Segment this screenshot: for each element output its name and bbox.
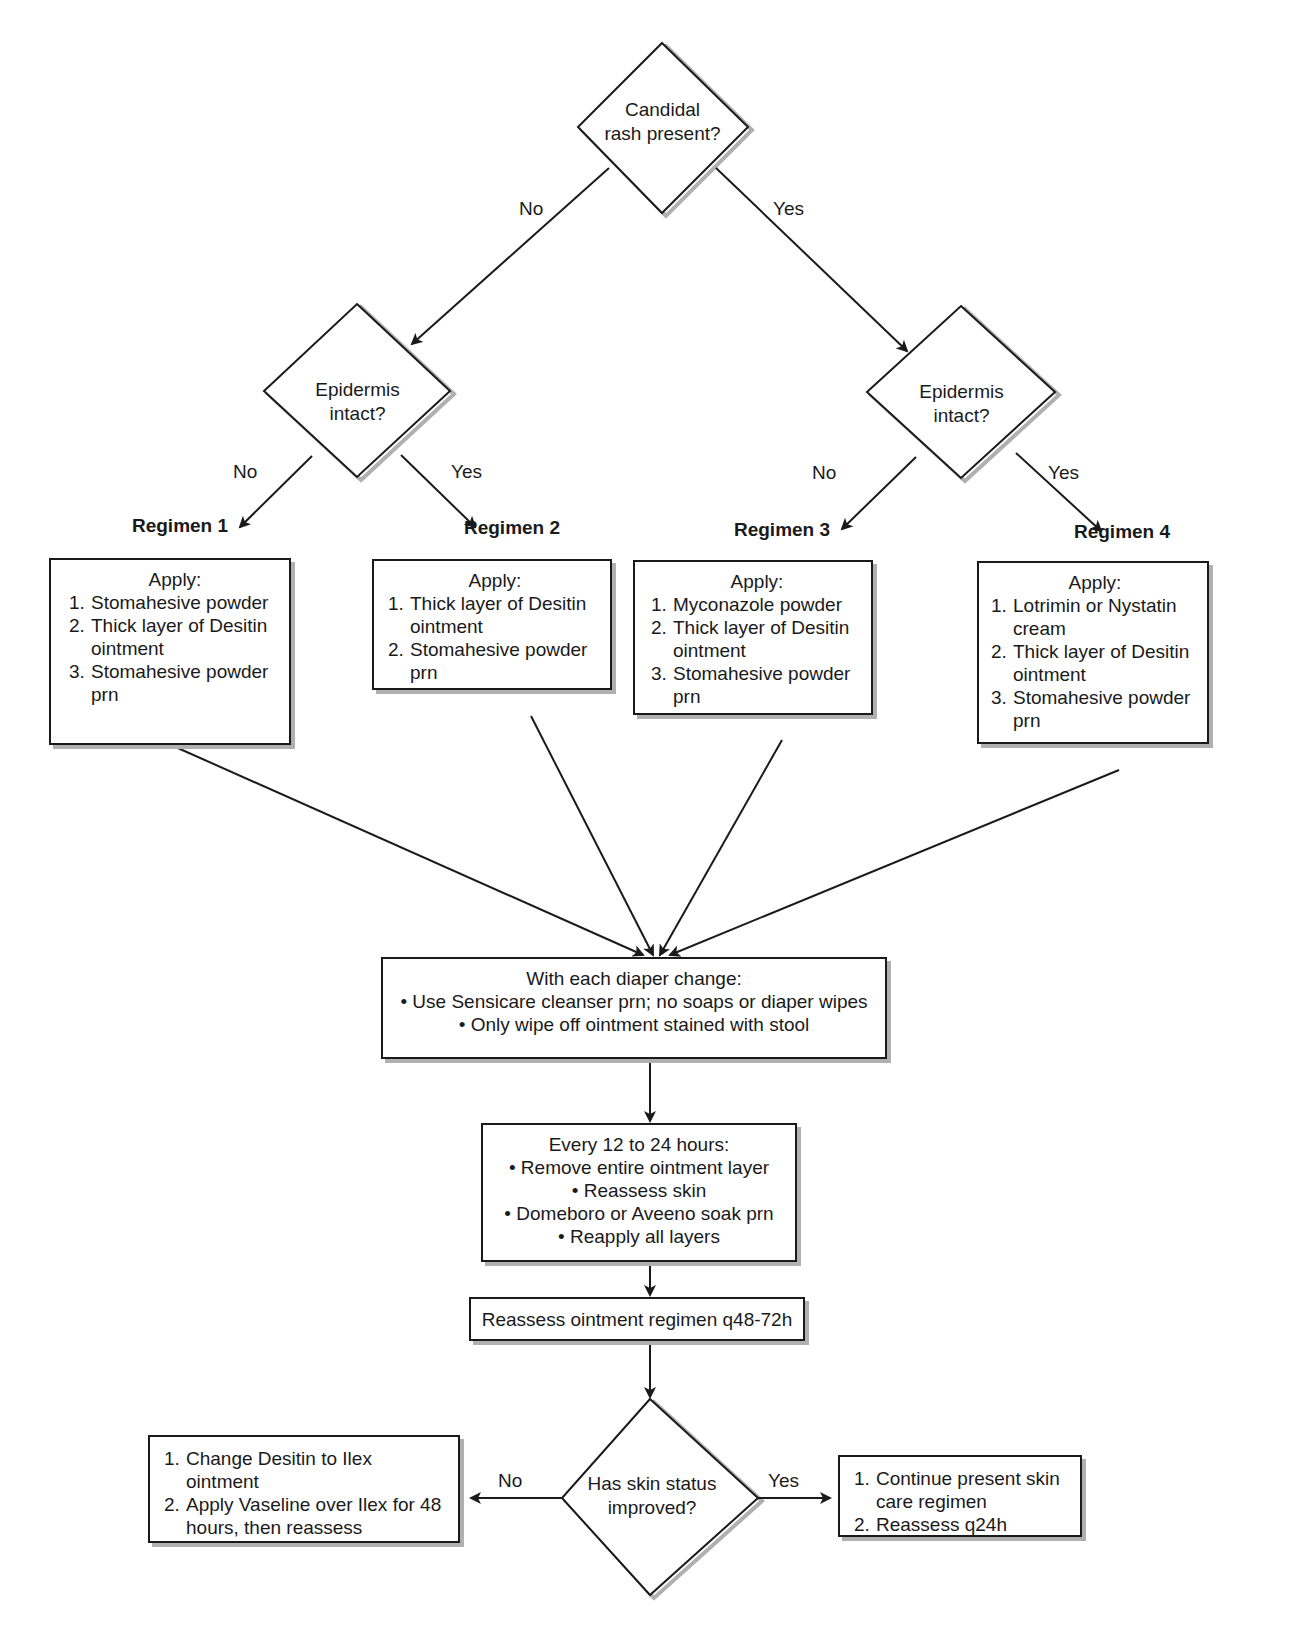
- decision-line: rash present?: [590, 122, 735, 146]
- item-text: Stomahesive powder prn: [673, 662, 863, 708]
- item-number: 3.: [651, 662, 673, 708]
- bullet-item: • Only wipe off ointment stained with st…: [389, 1013, 879, 1036]
- regimen-4-title: Regimen 4: [1022, 521, 1222, 543]
- decision-skin-improved-text: Has skin status improved?: [572, 1472, 732, 1520]
- item-number: 1.: [164, 1447, 186, 1493]
- bullet-item: • Remove entire ointment layer: [489, 1156, 789, 1179]
- decision-line: improved?: [572, 1496, 732, 1520]
- item-number: 1.: [69, 591, 91, 614]
- item-text: Apply Vaseline over Ilex for 48 hours, t…: [186, 1493, 450, 1539]
- item-text: Thick layer of Desitin ointment: [673, 616, 863, 662]
- item-number: 2.: [991, 640, 1013, 686]
- item-text: Lotrimin or Nystatin cream: [1013, 594, 1199, 640]
- regimen-item: 3.Stomahesive powder prn: [991, 686, 1199, 732]
- decision-line: Has skin status: [572, 1472, 732, 1496]
- regimen-item: 1.Thick layer of Desitin ointment: [388, 592, 602, 638]
- bullet-item: • Use Sensicare cleanser prn; no soaps o…: [389, 990, 879, 1013]
- left-yes-label: Yes: [451, 461, 482, 483]
- item-text: Stomahesive powder prn: [91, 660, 281, 706]
- box-heading: With each diaper change:: [389, 967, 879, 990]
- item-number: 1.: [854, 1467, 876, 1513]
- item-number: 1.: [651, 593, 673, 616]
- decision-line: intact?: [290, 402, 425, 426]
- outcome-item: 2.Reassess q24h: [854, 1513, 1072, 1536]
- regimen-item: 2.Stomahesive powder prn: [388, 638, 602, 684]
- regimen-2-title: Regimen 2: [412, 517, 612, 539]
- item-text: Myconazole powder: [673, 593, 842, 616]
- regimen-heading: Apply:: [388, 569, 602, 592]
- decision-line: Epidermis: [894, 380, 1029, 404]
- left-no-label: No: [233, 461, 257, 483]
- decision-epidermis-right-text: Epidermis intact?: [894, 380, 1029, 428]
- item-number: 2.: [164, 1493, 186, 1539]
- decision-epidermis-left-text: Epidermis intact?: [290, 378, 425, 426]
- item-number: 3.: [991, 686, 1013, 732]
- regimen-1-title: Regimen 1: [80, 515, 280, 537]
- bullet-item: • Reassess skin: [489, 1179, 789, 1202]
- outcome-item: 2.Apply Vaseline over Ilex for 48 hours,…: [164, 1493, 450, 1539]
- item-number: 1.: [388, 592, 410, 638]
- item-text: Stomahesive powder prn: [1013, 686, 1199, 732]
- flowchart-connectors: [0, 0, 1294, 1627]
- item-text: Thick layer of Desitin ointment: [91, 614, 281, 660]
- regimen-item: 1.Stomahesive powder: [69, 591, 281, 614]
- item-text: Change Desitin to Ilex ointment: [186, 1447, 450, 1493]
- final-no-label: No: [498, 1470, 522, 1492]
- item-number: 1.: [991, 594, 1013, 640]
- decision-candidal-rash-text: Candidal rash present?: [590, 98, 735, 146]
- box-heading: Every 12 to 24 hours:: [489, 1133, 789, 1156]
- item-number: 3.: [69, 660, 91, 706]
- item-text: Thick layer of Desitin ointment: [410, 592, 602, 638]
- diaper-change-box: With each diaper change: • Use Sensicare…: [381, 957, 887, 1059]
- no-outcome-box: 1.Change Desitin to Ilex ointment 2.Appl…: [148, 1435, 460, 1543]
- item-number: 2.: [854, 1513, 876, 1536]
- final-yes-label: Yes: [768, 1470, 799, 1492]
- regimen-heading: Apply:: [991, 571, 1199, 594]
- item-text: Stomahesive powder: [91, 591, 268, 614]
- item-number: 2.: [69, 614, 91, 660]
- regimen-item: 2.Thick layer of Desitin ointment: [651, 616, 863, 662]
- outcome-item: 1.Change Desitin to Ilex ointment: [164, 1447, 450, 1493]
- decision-line: Candidal: [590, 98, 735, 122]
- regimen-1-box: Apply: 1.Stomahesive powder 2.Thick laye…: [49, 558, 291, 745]
- bullet-item: • Domeboro or Aveeno soak prn: [489, 1202, 789, 1225]
- regimen-item: 2.Thick layer of Desitin ointment: [69, 614, 281, 660]
- decision-line: intact?: [894, 404, 1029, 428]
- regimen-item: 1.Lotrimin or Nystatin cream: [991, 594, 1199, 640]
- regimen-4-box: Apply: 1.Lotrimin or Nystatin cream 2.Th…: [977, 561, 1209, 744]
- decision-line: Epidermis: [290, 378, 425, 402]
- item-number: 2.: [388, 638, 410, 684]
- regimen-item: 3.Stomahesive powder prn: [69, 660, 281, 706]
- item-text: Continue present skin care regimen: [876, 1467, 1072, 1513]
- outcome-item: 1.Continue present skin care regimen: [854, 1467, 1072, 1513]
- start-no-label: No: [519, 198, 543, 220]
- regimen-3-box: Apply: 1.Myconazole powder 2.Thick layer…: [633, 560, 873, 715]
- start-yes-label: Yes: [773, 198, 804, 220]
- item-number: 2.: [651, 616, 673, 662]
- regimen-heading: Apply:: [69, 568, 281, 591]
- right-no-label: No: [812, 462, 836, 484]
- bullet-item: • Reapply all layers: [489, 1225, 789, 1248]
- regimen-item: 1.Myconazole powder: [651, 593, 863, 616]
- right-yes-label: Yes: [1048, 462, 1079, 484]
- regimen-2-box: Apply: 1.Thick layer of Desitin ointment…: [372, 559, 612, 690]
- regimen-heading: Apply:: [651, 570, 863, 593]
- every-12-24-box: Every 12 to 24 hours: • Remove entire oi…: [481, 1123, 797, 1262]
- regimen-item: 3.Stomahesive powder prn: [651, 662, 863, 708]
- item-text: Reassess q24h: [876, 1513, 1007, 1536]
- yes-outcome-box: 1.Continue present skin care regimen 2.R…: [838, 1455, 1082, 1537]
- item-text: Thick layer of Desitin ointment: [1013, 640, 1199, 686]
- regimen-3-title: Regimen 3: [682, 519, 882, 541]
- item-text: Stomahesive powder prn: [410, 638, 602, 684]
- reassess-regimen-box: Reassess ointment regimen q48-72h: [469, 1297, 805, 1341]
- regimen-item: 2.Thick layer of Desitin ointment: [991, 640, 1199, 686]
